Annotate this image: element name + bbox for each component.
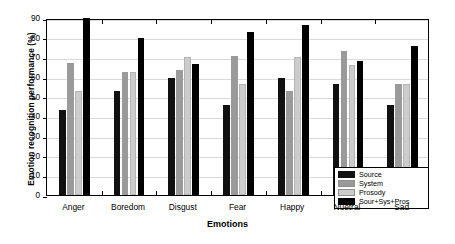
legend-item: System [338,179,425,188]
y-axis-tick [43,157,47,158]
bar-sour-sys-pros-boredom [138,38,145,195]
bar-prosody-boredom [130,72,137,195]
y-axis-tick [43,59,47,60]
y-axis-tick [43,118,47,119]
y-axis-tick-label: 30 [18,133,40,141]
y-axis-tick [43,197,47,198]
y-axis-tick-label: 50 [18,94,40,102]
bar-chart-figure: Emotion recognition performance (%) Emot… [0,0,455,244]
x-axis-tick [102,20,103,24]
x-axis-tick [321,20,322,24]
legend-label: Prosody [359,189,385,196]
legend-label: Source [359,171,382,178]
legend-item: Prosody [338,188,425,197]
y-axis-tick-label: 10 [18,172,40,180]
x-axis-tick [321,191,322,195]
bar-sour-sys-pros-disgust [192,64,199,195]
bar-source-boredom [114,91,121,195]
bar-prosody-fear [239,84,246,195]
legend-swatch-source [338,171,355,178]
x-axis-tick [266,191,267,195]
y-axis-tick-label: 40 [18,113,40,121]
bar-prosody-happy [294,57,301,195]
y-axis-tick [43,98,47,99]
y-axis-tick-label: 0 [18,192,40,200]
y-axis-tick-label: 20 [18,153,40,161]
x-axis-tick [211,191,212,195]
y-axis-tick-label: 70 [18,54,40,62]
bar-group [59,20,90,195]
bar-group [278,20,309,195]
legend-swatch-prosody [338,189,355,196]
bar-sour-sys-pros-fear [247,32,254,195]
bar-system-anger [67,63,74,195]
bar-system-happy [286,91,293,195]
bar-group [168,20,199,195]
legend-label: System [359,180,383,187]
y-axis-tick [43,20,47,21]
x-axis-tick [375,20,376,24]
bar-prosody-anger [75,91,82,195]
bar-system-disgust [176,70,183,195]
y-axis-tick-label: 90 [18,15,40,23]
bar-group [114,20,145,195]
y-axis-tick [43,39,47,40]
x-axis-tick [156,191,157,195]
bar-prosody-disgust [184,57,191,195]
x-axis-tick [156,20,157,24]
bar-group [223,20,254,195]
x-axis-tick-label: Sad [367,202,437,212]
bar-system-boredom [122,72,129,195]
x-axis-title: Emotions [0,219,455,229]
y-axis-tick [43,177,47,178]
y-axis-tick-label: 60 [18,74,40,82]
x-axis-tick [102,191,103,195]
legend-item: Source [338,170,425,179]
bar-source-anger [59,110,66,195]
y-axis-tick [43,79,47,80]
bar-sour-sys-pros-happy [302,25,309,195]
bar-system-fear [231,56,238,195]
x-axis-tick [266,20,267,24]
legend-swatch-system [338,180,355,187]
y-axis-tick [43,138,47,139]
bar-sour-sys-pros-anger [83,18,90,195]
y-axis-tick-label: 80 [18,35,40,43]
bar-source-disgust [168,78,175,195]
x-axis-tick [211,20,212,24]
bar-source-happy [278,78,285,195]
bar-source-fear [223,105,230,195]
